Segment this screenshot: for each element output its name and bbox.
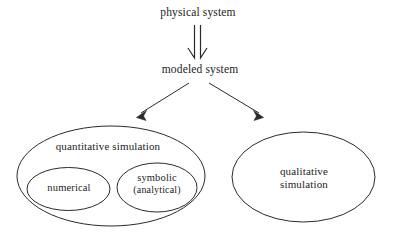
physical-system-label: physical system (128, 6, 268, 20)
qualitative-simulation-label: qualitative simulation (263, 165, 345, 191)
hollow-arrow-head-right (201, 48, 208, 58)
quantitative-simulation-label: quantitative simulation (33, 140, 183, 153)
physical-to-modeled-arrow (188, 25, 207, 58)
left-branch-line (141, 83, 189, 113)
simulation-taxonomy-diagram: physical system modeled system quantitat… (0, 0, 396, 234)
hollow-arrow-head-left (188, 48, 195, 58)
numerical-label: numerical (30, 182, 108, 194)
modeled-system-label: modeled system (130, 63, 270, 77)
symbolic-analytical-label: symbolic (analytical) (119, 172, 195, 196)
modeled-to-qualitative-arrow (209, 83, 264, 121)
symbolic-label-line2: (analytical) (119, 184, 195, 196)
left-branch-arrowhead (137, 111, 147, 121)
right-branch-line (209, 83, 259, 113)
qualitative-label-line2: simulation (263, 178, 345, 191)
qualitative-label-line1: qualitative (280, 165, 328, 177)
symbolic-label-line1: symbolic (137, 172, 177, 183)
modeled-to-quantitative-arrow (137, 83, 190, 121)
right-branch-arrowhead (254, 111, 264, 121)
diagram-canvas (0, 0, 396, 234)
